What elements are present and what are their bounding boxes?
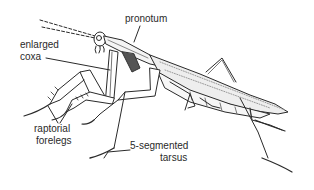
midleg-tarsus bbox=[90, 148, 114, 158]
label-tarsus-line2: tarsus bbox=[160, 153, 187, 163]
hindleg-tarsus bbox=[262, 158, 292, 172]
label-raptorial-forelegs-line2: forelegs bbox=[36, 136, 72, 146]
label-enlarged-coxa-line2: coxa bbox=[20, 52, 41, 62]
midleg-tibia bbox=[114, 92, 125, 148]
label-tarsus-line1: 5-segmented bbox=[130, 141, 188, 151]
head bbox=[94, 32, 106, 46]
mouthparts bbox=[95, 46, 104, 53]
label-raptorial-forelegs-line1: raptorial bbox=[34, 124, 70, 134]
label-enlarged-coxa-line1: enlarged bbox=[20, 40, 59, 50]
leader-forelegs-a bbox=[48, 106, 58, 123]
label-pronotum: pronotum bbox=[125, 14, 167, 24]
mantis-illustration bbox=[0, 0, 314, 190]
foreleg-tarsus-1 bbox=[24, 104, 50, 116]
leader-forelegs-b bbox=[60, 104, 72, 123]
leader-tarsus bbox=[108, 150, 130, 152]
leader-pronotum bbox=[134, 26, 140, 42]
leader-coxa bbox=[46, 58, 110, 70]
mantis-diagram: pronotum enlarged coxa raptorial foreleg… bbox=[0, 0, 314, 190]
